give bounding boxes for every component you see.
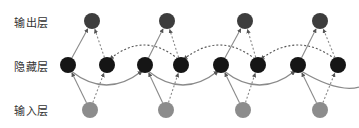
edge-forward-recurrent [301, 71, 359, 88]
edge-forward-to-output [72, 29, 88, 58]
output-node [84, 13, 100, 29]
input-node [82, 102, 98, 118]
nodes-group [60, 13, 346, 118]
edge-input-to-forward [225, 73, 240, 103]
edge-forward-to-output [149, 29, 163, 58]
input-node [312, 102, 328, 118]
edge-forward-recurrent [148, 71, 218, 85]
edge-backward-recurrent [184, 45, 255, 59]
edge-backward-recurrent [261, 45, 335, 59]
birnn-diagram: 输出层 隐藏层 输入层 [0, 0, 359, 128]
edge-input-to-backward [323, 73, 335, 102]
edge-backward-recurrent [110, 45, 178, 59]
input-node [235, 102, 251, 118]
edge-input-to-forward [72, 73, 87, 103]
edge-backward-to-output [323, 29, 335, 57]
edge-forward-recurrent [71, 71, 142, 85]
hidden-forward-node [213, 57, 229, 73]
network-graph [0, 0, 359, 128]
input-node [158, 102, 174, 118]
hidden-backward-node [330, 57, 346, 73]
output-node [312, 13, 328, 29]
hidden-forward-node [290, 57, 306, 73]
edge-forward-recurrent [224, 71, 295, 85]
edge-backward-to-output [248, 30, 256, 58]
edge-forward-to-output [225, 29, 241, 58]
output-node [237, 13, 253, 29]
edge-input-to-backward [169, 74, 179, 103]
hidden-backward-node [250, 57, 266, 73]
hidden-backward-node [173, 57, 189, 73]
hidden-backward-node [99, 57, 115, 73]
hidden-forward-node [137, 57, 153, 73]
edge-forward-to-output [302, 29, 316, 58]
edge-input-to-backward [93, 73, 104, 102]
output-node [159, 13, 175, 29]
hidden-forward-node [60, 57, 76, 73]
edge-input-to-backward [246, 74, 256, 103]
edge-backward-to-output [170, 30, 179, 58]
edge-input-to-forward [149, 73, 163, 103]
edge-backward-to-output [95, 30, 105, 58]
